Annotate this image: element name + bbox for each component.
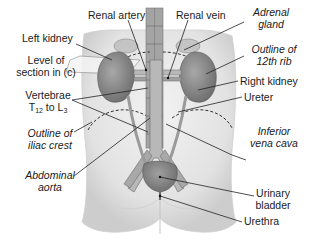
label-ivc-line1: Inferior: [242, 126, 306, 138]
label-level-of-section: Level of section in (c): [12, 55, 80, 78]
label-outline-12th-rib: Outline of 12th rib: [244, 44, 304, 67]
label-rib-line2: 12th rib: [244, 56, 304, 68]
label-aorta-line1: Abdominal: [22, 170, 78, 182]
label-bladder-line2: bladder: [248, 200, 298, 212]
label-iliac-line2: iliac crest: [22, 140, 78, 152]
label-level-line1: Level of: [12, 55, 80, 67]
label-adrenal-gland: Adrenal gland: [246, 7, 296, 30]
label-level-line2: section in (c): [12, 67, 80, 79]
label-outline-iliac-crest: Outline of iliac crest: [22, 128, 78, 151]
label-adrenal-line2: gland: [246, 19, 296, 31]
label-right-kidney: Right kidney: [240, 76, 298, 88]
label-inferior-vena-cava: Inferior vena cava: [242, 126, 306, 149]
label-vertebrae: Vertebrae T12 to L3: [20, 90, 76, 113]
label-aorta-line2: aorta: [22, 182, 78, 194]
label-ivc-line2: vena cava: [242, 138, 306, 150]
label-iliac-line1: Outline of: [22, 128, 78, 140]
label-left-kidney: Left kidney: [22, 33, 73, 45]
label-urethra: Urethra: [244, 216, 279, 228]
label-bladder-line1: Urinary: [248, 188, 298, 200]
urinary-system-diagram: Renal artery Renal vein Adrenal gland Le…: [0, 0, 312, 249]
label-ureter: Ureter: [244, 92, 273, 104]
label-adrenal-line1: Adrenal: [246, 7, 296, 19]
adrenal-gland-right: [176, 39, 200, 53]
label-renal-artery: Renal artery: [88, 10, 145, 22]
right-kidney: [180, 52, 217, 102]
label-rib-line1: Outline of: [244, 44, 304, 56]
label-vertebrae-line2: T12 to L3: [20, 102, 76, 114]
label-abdominal-aorta: Abdominal aorta: [22, 170, 78, 193]
adrenal-gland-left: [114, 39, 138, 53]
label-renal-vein: Renal vein: [176, 10, 226, 22]
label-urinary-bladder: Urinary bladder: [248, 188, 298, 211]
